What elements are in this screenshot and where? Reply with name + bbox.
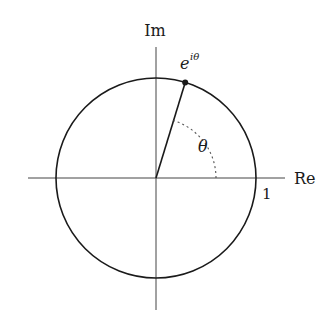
unit-tick-label: 1	[262, 185, 272, 203]
imag-axis-label: Im	[144, 21, 166, 40]
angle-label: θ	[198, 137, 208, 156]
radius-line	[156, 82, 185, 178]
point-e-i-theta	[182, 79, 188, 85]
point-label-base: e	[180, 54, 189, 73]
real-axis-label: Re	[294, 169, 316, 188]
angle-arc	[174, 121, 217, 178]
unit-circle-diagram: Im Re 1 e iθ θ	[0, 0, 336, 322]
point-label-exponent: iθ	[190, 51, 199, 62]
